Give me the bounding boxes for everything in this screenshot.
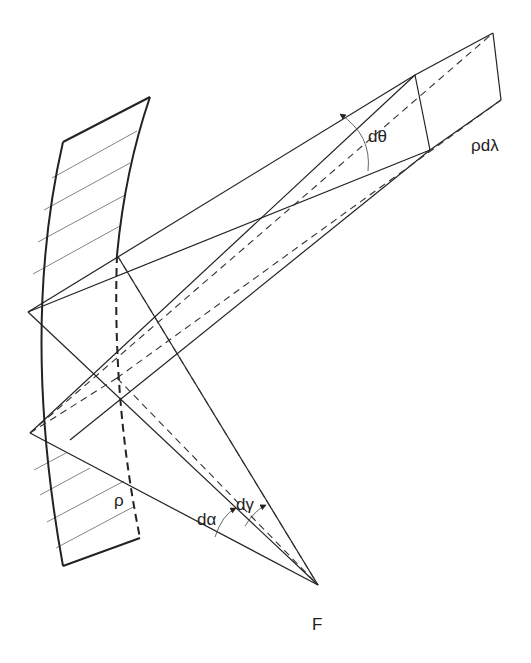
ray-p1-upper <box>28 75 415 312</box>
focus-label: F <box>312 616 322 633</box>
dgamma-label: dγ <box>236 496 254 513</box>
dtheta-label: dθ <box>368 128 387 145</box>
dalpha-label: dα <box>197 511 216 528</box>
diagram: dθ ρdλ ρ dα dγ F <box>0 0 531 663</box>
angle-arcs <box>215 114 368 537</box>
mirror-hatching <box>33 131 137 548</box>
rho-dlambda-label: ρdλ <box>471 137 499 154</box>
ray-p1-to-f <box>28 312 318 585</box>
ray-bundle-edge <box>70 150 430 440</box>
mirror-top-edge <box>63 97 150 142</box>
dashed-ray-upper <box>30 33 493 433</box>
mirror-bottom-edge <box>63 538 140 566</box>
rho-label: ρ <box>114 492 124 509</box>
dashed-ray-lower <box>117 100 501 378</box>
ray-p1-lower <box>28 150 430 312</box>
box-top <box>415 33 493 75</box>
box-right <box>493 33 501 100</box>
box-cross <box>415 75 430 150</box>
diagram-canvas <box>0 0 531 663</box>
solid-rays <box>28 33 501 585</box>
mirror-inner-arc-top <box>117 97 150 255</box>
dashed-ray-to-f <box>117 378 318 585</box>
dashed-rays <box>30 33 501 585</box>
